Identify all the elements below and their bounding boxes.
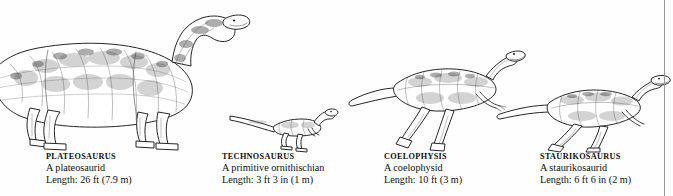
figure-plateosaurus (0, 8, 246, 153)
caption-classification-staurikosaurus: A staurikosaurid (540, 162, 631, 174)
caption-name-staurikosaurus: STAURIKOSAURUS (540, 152, 631, 162)
caption-staurikosaurus: STAURIKOSAURUS A staurikosaurid Length: … (540, 152, 631, 185)
caption-technosaurus: TECHNOSAURUS A primitive ornithischian L… (222, 152, 324, 185)
caption-name-technosaurus: TECHNOSAURUS (222, 152, 324, 162)
caption-length-plateosaurus: Length: 26 ft (7.9 m) (46, 174, 132, 186)
figure-staurikosaurus (492, 72, 672, 152)
caption-name-plateosaurus: PLATEOSAURUS (46, 152, 132, 162)
dinosaur-size-comparison-plate: PLATEOSAURUS A plateosaurid Length: 26 f… (0, 0, 673, 196)
caption-length-staurikosaurus: Length: 6 ft 6 in (2 m) (540, 174, 631, 186)
caption-classification-technosaurus: A primitive ornithischian (222, 162, 324, 174)
caption-coelophysis: COELOPHYSIS A coelophysid Length: 10 ft … (384, 152, 462, 185)
caption-length-technosaurus: Length: 3 ft 3 in (1 m) (222, 174, 324, 186)
caption-length-coelophysis: Length: 10 ft (3 m) (384, 174, 462, 186)
caption-classification-coelophysis: A coelophysid (384, 162, 462, 174)
figure-technosaurus (228, 104, 338, 152)
caption-plateosaurus: PLATEOSAURUS A plateosaurid Length: 26 f… (46, 152, 132, 185)
caption-classification-plateosaurus: A plateosaurid (46, 162, 132, 174)
caption-name-coelophysis: COELOPHYSIS (384, 152, 462, 162)
page-gutter-rule (664, 0, 665, 196)
